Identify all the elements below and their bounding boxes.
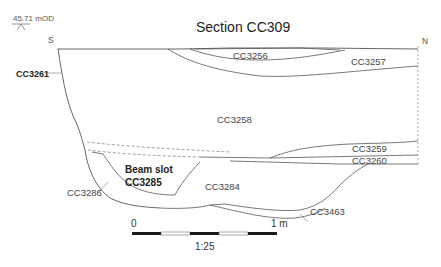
section-outline-svg <box>0 0 441 267</box>
context-label-cc3260: CC3260 <box>352 156 387 166</box>
context-label-cc3261: CC3261 <box>16 70 49 79</box>
section-drawing: Section CC309 45.71 mOD S N CC3256 CC325… <box>0 0 441 267</box>
layer-cc3260-base <box>230 161 418 164</box>
leader-cc3463 <box>300 214 308 222</box>
orientation-north: N <box>422 37 428 46</box>
context-label-cc3463: CC3463 <box>310 207 345 217</box>
datum-label: 45.71 mOD <box>13 15 54 23</box>
scale-ratio-label: 1:25 <box>195 242 214 252</box>
beam-slot-label-line2: CC3285 <box>125 177 173 190</box>
context-label-cc3286: CC3286 <box>67 188 102 198</box>
orientation-south: S <box>48 36 54 45</box>
scale-start-label: 0 <box>131 219 137 229</box>
context-label-cc3257: CC3257 <box>351 57 386 67</box>
context-label-cc3284: CC3284 <box>205 182 240 192</box>
context-label-cc3259: CC3259 <box>352 144 387 154</box>
beam-slot-label: Beam slot CC3285 <box>125 164 173 189</box>
beam-slot-label-line1: Beam slot <box>125 164 173 177</box>
dashed-line-upper <box>87 142 230 152</box>
datum-marker-icon <box>12 24 30 30</box>
scale-end-label: 1 m <box>271 219 288 229</box>
context-label-cc3258: CC3258 <box>217 115 252 125</box>
context-label-cc3256: CC3256 <box>233 51 268 61</box>
layer-cc3463-boundary <box>210 205 325 218</box>
section-title: Section CC309 <box>196 20 290 34</box>
scale-bar <box>132 232 277 235</box>
